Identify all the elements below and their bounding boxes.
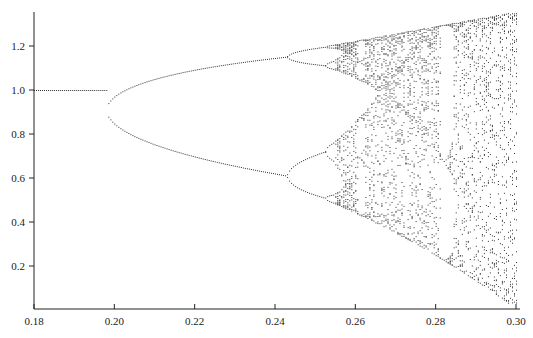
x-tick-label: 0.28 (426, 315, 446, 327)
x-tick-label: 0.18 (24, 315, 44, 327)
x-tick-label: 0.20 (105, 315, 125, 327)
x-tick-label: 0.24 (265, 315, 285, 327)
y-ticks: 0.20.40.60.81.01.2 (11, 40, 34, 272)
x-tick-label: 0.22 (185, 315, 204, 327)
bifurcation-points (34, 13, 517, 304)
y-tick-label: 1.2 (11, 40, 25, 52)
x-tick-label: 0.30 (506, 315, 526, 327)
bifurcation-chart: 0.180.200.220.240.260.280.30 0.20.40.60.… (0, 0, 533, 338)
axes: 0.180.200.220.240.260.280.30 0.20.40.60.… (11, 12, 526, 327)
y-tick-label: 0.6 (11, 172, 25, 184)
x-ticks: 0.180.200.220.240.260.280.30 (24, 304, 526, 327)
y-tick-label: 0.4 (11, 216, 25, 228)
y-tick-label: 0.8 (11, 128, 25, 140)
y-tick-label: 1.0 (11, 84, 25, 96)
x-tick-label: 0.26 (346, 315, 366, 327)
y-tick-label: 0.2 (11, 260, 25, 272)
